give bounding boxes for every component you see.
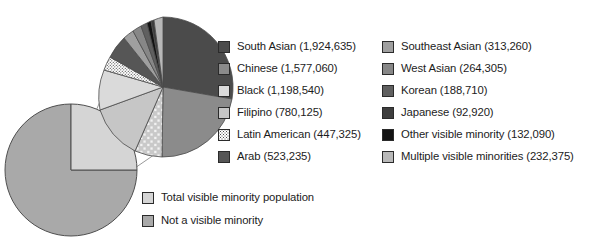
legend-swatch-not-a-visible-minority [142,215,154,227]
legend-label-west-asian: West Asian (264,305) [401,63,507,74]
legend-item-other-visible-minority[interactable]: Other visible minority (132,090) [382,124,574,146]
legend-label-multiple-visible-minorities: Multiple visible minorities (232,375) [401,151,574,162]
legend-label-total-visible-minority: Total visible minority population [161,192,314,203]
legend-swatch-multiple-visible-minorities [382,151,394,163]
legend-item-filipino[interactable]: Filipino (780,125) [218,102,361,124]
legend-swatch-west-asian [382,63,394,75]
visible-minority-pie-figure: South Asian (1,924,635) Chinese (1,577,0… [0,0,595,250]
legend-item-latin-american[interactable]: Latin American (447,325) [218,124,361,146]
legend-swatch-other-visible-minority [382,129,394,141]
legend-swatch-chinese [218,63,230,75]
legend-swatch-arab [218,151,230,163]
legend-item-west-asian[interactable]: West Asian (264,305) [382,58,574,80]
legend-swatch-total-visible-minority [142,192,154,204]
legend-left-column: South Asian (1,924,635) Chinese (1,577,0… [218,36,361,168]
legend-label-south-asian: South Asian (1,924,635) [237,41,356,52]
legend-inset-column: Total visible minority population Not a … [142,186,314,232]
legend-swatch-japanese [382,107,394,119]
legend-item-south-asian[interactable]: South Asian (1,924,635) [218,36,361,58]
legend-label-korean: Korean (188,710) [401,85,487,96]
legend-label-black: Black (1,198,540) [237,85,324,96]
legend-swatch-latin-american [218,129,230,141]
legend-label-japanese: Japanese (92,920) [401,107,494,118]
legend-item-arab[interactable]: Arab (523,235) [218,146,361,168]
legend-item-not-a-visible-minority[interactable]: Not a visible minority [142,209,314,232]
legend-item-multiple-visible-minorities[interactable]: Multiple visible minorities (232,375) [382,146,574,168]
legend-label-filipino: Filipino (780,125) [237,107,323,118]
legend-label-not-a-visible-minority: Not a visible minority [161,215,263,226]
legend-label-latin-american: Latin American (447,325) [237,129,361,140]
legend-label-southeast-asian: Southeast Asian (313,260) [401,41,532,52]
legend-swatch-korean [382,85,394,97]
legend-item-chinese[interactable]: Chinese (1,577,060) [218,58,361,80]
legend-label-chinese: Chinese (1,577,060) [237,63,337,74]
legend-item-japanese[interactable]: Japanese (92,920) [382,102,574,124]
legend-swatch-southeast-asian [382,41,394,53]
main-pie [99,17,233,157]
legend-label-arab: Arab (523,235) [237,151,311,162]
legend-item-black[interactable]: Black (1,198,540) [218,80,361,102]
legend-item-total-visible-minority[interactable]: Total visible minority population [142,186,314,209]
legend-swatch-south-asian [218,41,230,53]
legend-item-southeast-asian[interactable]: Southeast Asian (313,260) [382,36,574,58]
legend-label-other-visible-minority: Other visible minority (132,090) [401,129,555,140]
legend-right-column: Southeast Asian (313,260) West Asian (26… [382,36,574,168]
legend-item-korean[interactable]: Korean (188,710) [382,80,574,102]
legend-swatch-filipino [218,107,230,119]
legend-swatch-black [218,85,230,97]
